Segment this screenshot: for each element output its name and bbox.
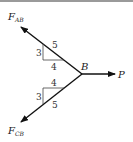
label-fab: FAB: [7, 11, 24, 23]
upper-rise-label: 3: [36, 48, 42, 58]
upper-run-label: 4: [51, 62, 57, 72]
upper-hypotenuse-label: 5: [52, 40, 58, 50]
label-point-b: B: [80, 61, 88, 72]
lower-rise-label: 3: [36, 92, 42, 102]
free-body-diagram: FAB FCB P B 5 3 4 4 3 5: [0, 0, 133, 142]
lower-hypotenuse-label: 5: [52, 100, 58, 110]
label-fcb: FCB: [7, 125, 25, 137]
label-p: P: [117, 69, 125, 80]
lower-run-label: 4: [51, 78, 57, 88]
